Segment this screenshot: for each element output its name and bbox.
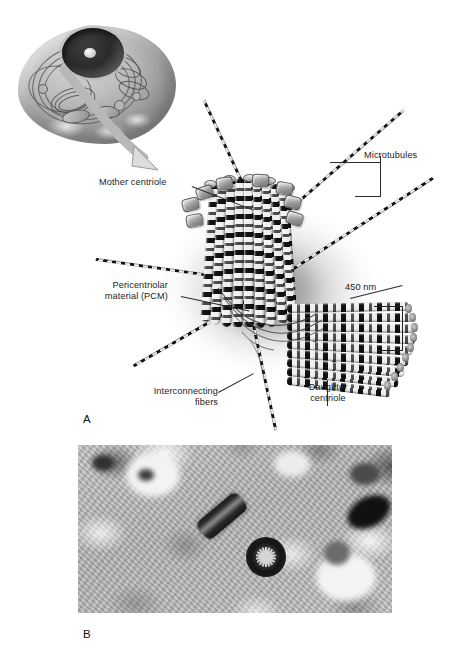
triplet-end <box>410 333 417 342</box>
label-pcm-line1: Pericentriolar <box>46 280 168 291</box>
em-vesicle <box>274 451 310 477</box>
dimension-bracket-top <box>374 306 403 307</box>
em-dense-granule <box>138 469 154 481</box>
triplet-end <box>384 381 391 390</box>
panel-b-micrograph <box>78 445 392 613</box>
cartwheel-spokes <box>256 547 276 567</box>
label-pcm-line2: material (PCM) <box>46 291 168 302</box>
distal-appendage <box>215 176 234 191</box>
label-daughter-line2: centriole <box>288 393 368 404</box>
triplet-end <box>391 372 398 381</box>
figure-root: Mother centriole Pericentriolar material… <box>0 0 457 657</box>
panel-b-letter: B <box>83 628 91 640</box>
vesicle <box>38 84 48 94</box>
nucleolus <box>84 48 96 58</box>
microtubules-bracket-upper <box>330 162 381 163</box>
label-interconnecting-line2: fibers <box>108 397 218 408</box>
cell-inset-illustration <box>14 14 186 154</box>
label-mother-centriole: Mother centriole <box>99 177 166 188</box>
em-dense-granule <box>92 455 114 471</box>
interconnecting-fibers <box>180 280 340 390</box>
em-dense-granule <box>350 463 380 485</box>
triplet-end <box>405 304 412 313</box>
microtubules-bracket-lower <box>355 196 381 197</box>
panel-a-letter: A <box>83 413 91 425</box>
triplet-end <box>397 363 404 372</box>
triplet-end <box>411 323 418 332</box>
triplet-end <box>409 313 416 322</box>
distal-appendage <box>275 181 294 197</box>
label-microtubules: Microtubules <box>364 150 417 161</box>
panel-a: Mother centriole Pericentriolar material… <box>0 0 457 440</box>
triplet-end <box>402 353 409 362</box>
dimension-bracket-vertical <box>402 306 403 350</box>
microtubules-bracket-vertical <box>380 162 381 196</box>
dimension-bracket-bottom <box>378 350 403 351</box>
label-daughter-line1: Daughter <box>288 382 368 393</box>
triplet-end <box>407 343 414 352</box>
pointer-arrow-icon <box>62 66 192 176</box>
em-membrane-profile <box>324 541 350 565</box>
label-interconnecting-line1: Interconnecting <box>108 386 218 397</box>
label-450-nm: 450 nm <box>345 282 376 293</box>
distal-appendage <box>252 173 270 187</box>
